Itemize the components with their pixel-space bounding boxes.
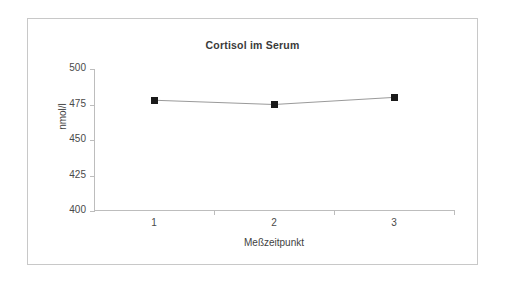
y-tick-mark bbox=[90, 211, 95, 212]
x-tick-label: 3 bbox=[374, 217, 414, 228]
chart-screenshot: Cortisol im Serum nmol/l Meßzeitpunkt 40… bbox=[0, 0, 505, 284]
data-line bbox=[94, 69, 454, 211]
y-tick-label: 400 bbox=[52, 204, 86, 215]
x-tick-label: 2 bbox=[254, 217, 294, 228]
data-point-marker bbox=[391, 94, 398, 101]
y-tick-label: 475 bbox=[52, 98, 86, 109]
data-point-marker bbox=[151, 97, 158, 104]
x-tick-label: 1 bbox=[134, 217, 174, 228]
y-tick-label: 450 bbox=[52, 133, 86, 144]
y-tick-label: 500 bbox=[52, 62, 86, 73]
data-point-marker bbox=[271, 101, 278, 108]
chart-frame: Cortisol im Serum nmol/l Meßzeitpunkt 40… bbox=[27, 18, 478, 265]
plot-area: 400425450475500 123 bbox=[94, 69, 454, 211]
chart-title: Cortisol im Serum bbox=[28, 39, 477, 51]
y-tick-label: 425 bbox=[52, 169, 86, 180]
x-tick-mark bbox=[454, 210, 455, 215]
x-axis-title: Meßzeitpunkt bbox=[94, 237, 454, 248]
